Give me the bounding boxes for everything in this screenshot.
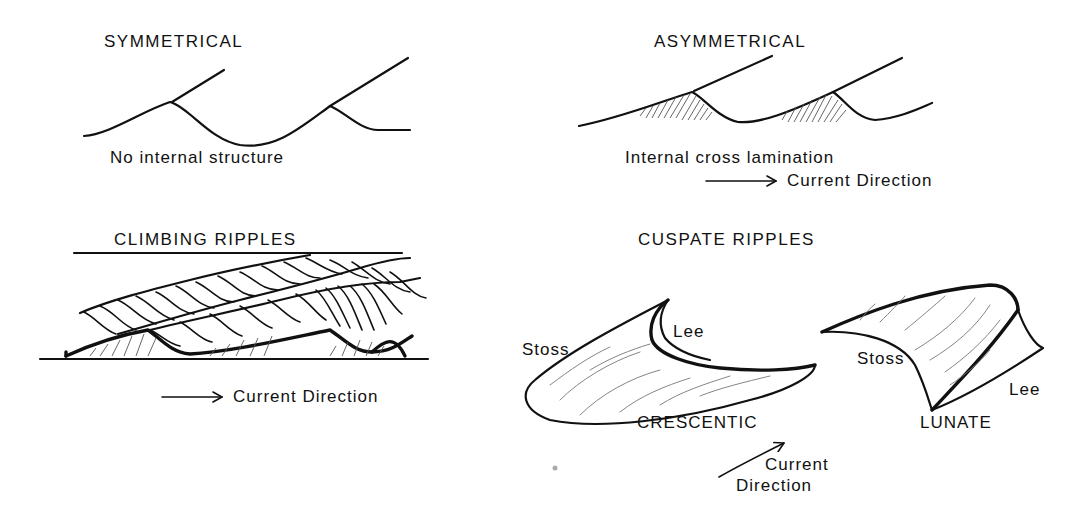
cuspate-ripples-title: CUSPATE RIPPLES [638,230,815,250]
asymmetrical-title: ASYMMETRICAL [654,32,806,52]
lunate-lee-label: Lee [1009,380,1040,400]
climbing-ripples-drawing [40,253,428,359]
crescentic-name-label: CRESCENTIC [637,413,758,433]
symmetrical-ripple-profile [84,58,410,146]
asymmetrical-arrow-label: Current Direction [787,171,933,191]
cuspate-arrow-label-line1: Current [765,455,829,475]
climbing-arrow-label: Current Direction [233,387,379,407]
scan-speck [553,466,558,471]
crescentic-lee-label: Lee [673,322,704,342]
lunate-name-label: LUNATE [920,413,992,433]
asymmetrical-ripple-profile [579,56,932,126]
climbing-ripples-title: CLIMBING RIPPLES [114,230,297,250]
crescentic-ripple-drawing [526,300,815,424]
diagram-drawing [0,0,1080,513]
symmetrical-caption: No internal structure [110,148,284,168]
symmetrical-title: SYMMETRICAL [104,32,243,52]
lunate-stoss-label: Stoss [857,349,905,369]
crescentic-stoss-label: Stoss [522,340,570,360]
ripple-types-diagram: SYMMETRICAL No internal structure ASYMME… [0,0,1080,513]
asymmetrical-caption: Internal cross lamination [625,148,834,168]
cuspate-arrow-label-line2: Direction [736,476,812,496]
